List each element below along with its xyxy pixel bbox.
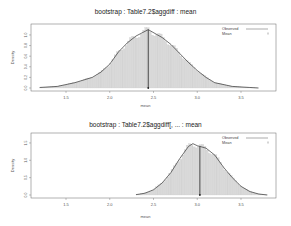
x-tick-label: 3.5 [238,95,244,100]
x-tick-label: 1.5 [63,95,69,100]
legend-entry: Mean [222,32,232,36]
legend-entry: Observed [222,27,238,31]
y-axis-label: Density [10,159,15,172]
y-tick-label: 0.8 [24,43,28,48]
legend-entry: Observed [222,136,238,140]
legend: ObservedMean [222,136,268,145]
x-tick-label: 2.5 [151,202,157,207]
x-tick-label: 2.0 [107,95,113,100]
histogram-bars [136,144,267,195]
y-tick-label: 0.5 [24,175,28,180]
top-chart-xlabel: mean [0,103,291,108]
x-tick-label: 2.5 [151,95,157,100]
bottom-chart-xlabel: mean [0,214,291,219]
y-tick-label: 0.0 [24,193,28,198]
top-chart-panel: bootstrap : Table7.2$aggdiff : mean 1.52… [0,0,291,113]
bottom-chart-plot: 1.52.02.53.03.50.00.51.01.5DensityObserv… [0,113,291,226]
x-tick-label: 1.5 [63,202,69,207]
x-tick-label: 2.0 [107,202,113,207]
mean-marker [199,194,201,196]
x-tick-label: 3.0 [194,95,200,100]
y-tick-label: 1.5 [24,140,28,145]
top-chart-plot: 1.52.02.53.03.50.00.20.40.60.81.0Density… [0,0,291,113]
x-tick-label: 3.0 [194,202,200,207]
legend-entry: Mean [222,141,232,145]
histogram-bars [40,27,259,88]
y-axis-label: Density [10,51,15,64]
mean-marker [147,87,149,89]
y-tick-label: 1.0 [24,158,28,163]
y-tick-label: 0.0 [24,86,28,91]
y-tick-label: 0.6 [24,54,28,59]
y-tick-label: 0.2 [24,75,28,80]
y-tick-label: 1.0 [24,32,28,37]
bottom-chart-panel: bootstrap : Table7.2$aggdiff[, ... : mea… [0,113,291,226]
y-tick-label: 0.4 [24,64,28,69]
legend: ObservedMean [222,27,268,36]
x-tick-label: 3.5 [238,202,244,207]
